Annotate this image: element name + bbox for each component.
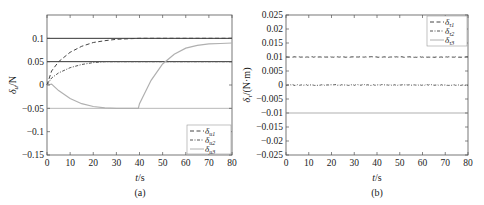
y-tick-label: 0.05	[27, 57, 44, 67]
x-tick-label: 40	[372, 158, 382, 168]
series-group-a	[47, 38, 232, 108]
x-tick-label: 50	[158, 158, 168, 168]
y-axis-title-b: δτ/(N·m)	[241, 68, 254, 103]
y-tick-label: 0	[278, 80, 283, 90]
y-tick-label: −0.025	[256, 150, 283, 160]
y-tick-label: 0.025	[262, 10, 284, 20]
y-tick-label: −0.02	[261, 136, 283, 146]
x-tick-label: 30	[350, 158, 360, 168]
x-tick-label: 40	[135, 158, 145, 168]
legend-a: δu1δu2δu3	[187, 125, 231, 155]
figure: 0.10.050−0.05−0.1−0.15 01020304050607080…	[0, 0, 484, 205]
x-tick-label: 80	[463, 158, 473, 168]
y-tick-label: 0.1	[32, 34, 44, 44]
y-tick-label: −0.015	[256, 122, 283, 132]
x-axis-title-a: t/s	[135, 172, 145, 183]
x-tick-label: 10	[65, 158, 75, 168]
y-tick-label: 0.005	[262, 66, 284, 76]
y-tick-label: −0.005	[256, 94, 283, 104]
x-tick-label: 20	[327, 158, 337, 168]
series-line-δu3	[47, 43, 232, 108]
x-tick-label: 70	[204, 158, 214, 168]
caption-a: (a)	[134, 187, 145, 199]
y-tick-label: 0.02	[266, 24, 283, 34]
caption-b: (b)	[371, 187, 383, 199]
x-tick-label: 60	[181, 158, 191, 168]
y-tick-label: 0.015	[262, 38, 284, 48]
y-tick-label: 0	[39, 80, 44, 90]
x-tick-label: 20	[89, 158, 99, 168]
y-tick-label: −0.01	[261, 108, 283, 118]
x-tick-label: 0	[284, 158, 289, 168]
y-tick-label: −0.15	[22, 150, 44, 160]
reference-lines-a	[47, 38, 232, 108]
legend-b: δτ1δτ2δτ3	[427, 16, 467, 46]
x-tick-label: 50	[395, 158, 405, 168]
x-tick-label: 60	[418, 158, 428, 168]
series-line-δτ1	[286, 57, 468, 58]
y-tick-label: −0.1	[27, 127, 44, 137]
y-axis-title-a: δu/N	[7, 76, 20, 94]
x-tick-label: 80	[227, 158, 237, 168]
series-line-δu2	[47, 62, 232, 85]
x-tick-label: 30	[112, 158, 122, 168]
y-tick-label: 0.01	[266, 52, 283, 62]
series-group-b	[286, 57, 468, 113]
series-line-δτ2	[286, 85, 468, 86]
chart-a: 0.10.050−0.05−0.1−0.15 01020304050607080…	[7, 15, 237, 199]
x-axis-title-b: t/s	[372, 172, 382, 183]
x-tick-label: 0	[45, 158, 50, 168]
y-tick-label: −0.05	[22, 104, 44, 114]
x-tick-label: 70	[441, 158, 451, 168]
chart-b: 0.0250.020.0150.010.0050−0.005−0.01−0.01…	[241, 10, 473, 199]
x-tick-label: 10	[304, 158, 314, 168]
